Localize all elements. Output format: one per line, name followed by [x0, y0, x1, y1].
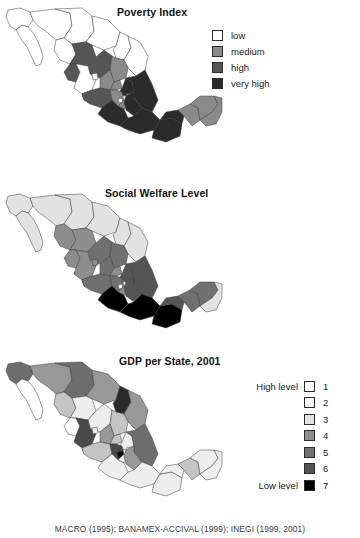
legend-swatch-medium	[212, 46, 223, 57]
legend-swatch-very-high	[212, 78, 223, 89]
state-baja-california	[6, 194, 33, 216]
state-aguascalientes	[92, 427, 98, 434]
map-poverty-index	[0, 0, 240, 178]
legend-swatch-low	[212, 30, 223, 41]
state-baja-california-sur	[16, 379, 43, 420]
legend-item: very high	[212, 75, 270, 91]
state-baja-california	[6, 8, 33, 30]
panel-gdp-per-state: GDP per State, 2001	[0, 352, 360, 524]
legend-item: medium	[212, 43, 270, 59]
state-baja-california	[6, 362, 33, 384]
legend-label: medium	[231, 46, 265, 57]
map-poverty-svg	[0, 0, 240, 178]
legend-item: low	[212, 27, 270, 43]
legend-item: high	[212, 59, 270, 75]
legend-label: high	[231, 62, 249, 73]
panel-poverty-index: Poverty Index	[0, 0, 360, 178]
state-aguascalientes	[92, 73, 98, 80]
source-caption: MACRO (1995); BANAMEX-ACCIVAL (1999); IN…	[0, 524, 360, 534]
map-gdp-svg	[0, 352, 240, 524]
map-welfare-svg	[0, 178, 240, 356]
state-baja-california-sur	[16, 211, 43, 252]
map-social-welfare	[0, 178, 240, 356]
legend-label: low	[231, 30, 245, 41]
legend-poverty: low medium high very high	[212, 27, 270, 91]
legend-swatch-high	[212, 62, 223, 73]
figure-page: Poverty Index	[0, 0, 360, 538]
legend-label: very high	[231, 78, 270, 89]
state-aguascalientes	[92, 259, 98, 266]
map-gdp-per-state	[0, 352, 240, 524]
panel-social-welfare-level: Social Welfare Level	[0, 178, 360, 356]
state-baja-california-sur	[16, 25, 43, 66]
